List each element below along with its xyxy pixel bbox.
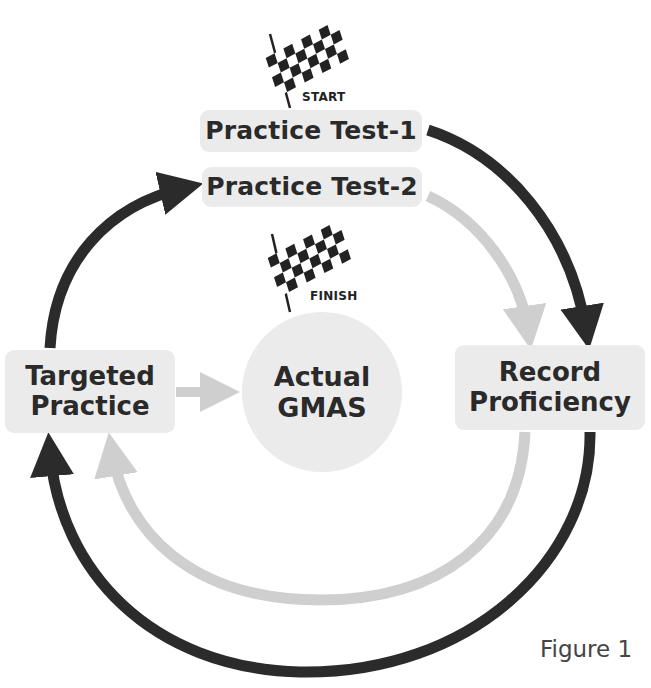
record-proficiency-line-1: Record bbox=[499, 358, 601, 387]
actual-gmas-node: Actual GMAS bbox=[242, 312, 402, 472]
actual-gmas-line-1: Actual bbox=[274, 361, 371, 392]
cycle-diagram: START Practice Test-1 Practice Test-2 FI… bbox=[0, 0, 651, 688]
start-label: START bbox=[302, 90, 346, 104]
arrow-test1-to-record bbox=[428, 130, 586, 330]
arrow-test2-to-record bbox=[428, 196, 528, 330]
record-proficiency-line-2: Proficiency bbox=[469, 388, 631, 417]
record-proficiency-node: Record Proficiency bbox=[455, 345, 645, 430]
figure-caption: Figure 1 bbox=[540, 636, 632, 662]
targeted-practice-line-1: Targeted bbox=[25, 362, 155, 391]
targeted-practice-node: Targeted Practice bbox=[5, 350, 175, 433]
targeted-practice-line-2: Practice bbox=[30, 392, 149, 421]
actual-gmas-line-2: GMAS bbox=[277, 392, 366, 423]
arrow-targeted-to-test2 bbox=[50, 188, 184, 348]
finish-label: FINISH bbox=[310, 289, 358, 303]
practice-test-1-node: Practice Test-1 bbox=[200, 110, 422, 152]
practice-test-2-node: Practice Test-2 bbox=[202, 167, 422, 207]
